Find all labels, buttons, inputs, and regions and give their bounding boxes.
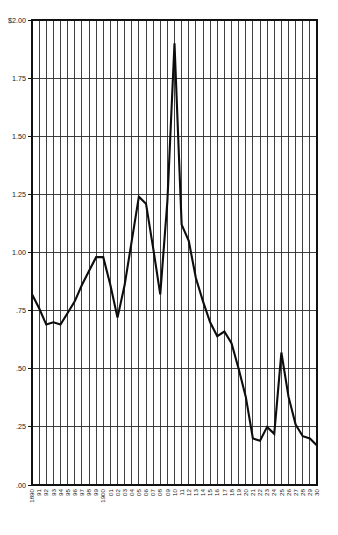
- y-axis-tick-label: .50: [16, 364, 26, 373]
- x-axis-tick-label: 92: [42, 488, 49, 495]
- x-axis-tick-label: 30: [313, 488, 320, 495]
- x-axis-tick-label: 1900: [99, 488, 106, 502]
- x-axis-tick-label: 94: [57, 488, 64, 495]
- x-axis-tick-label: 09: [164, 488, 171, 495]
- y-axis-tick-label: $2.00: [8, 16, 26, 25]
- y-axis-tick-label: 1.75: [12, 74, 26, 83]
- chart-figure: $2.001.751.501.251.00.75.50.25.00 189091…: [0, 0, 338, 535]
- x-axis-tick-label: 21: [249, 488, 256, 495]
- x-axis-tick-label: 15: [206, 488, 213, 495]
- x-axis-tick-label: 03: [121, 488, 128, 495]
- x-axis-tick-label: 95: [64, 488, 71, 495]
- x-axis-tick-label: 10: [171, 488, 178, 495]
- x-axis-tick-label: 16: [213, 488, 220, 495]
- y-axis-tick-label: .75: [16, 306, 26, 315]
- x-axis-tick-label: 20: [242, 488, 249, 495]
- x-axis-tick-label: 07: [149, 488, 156, 495]
- x-axis-tick-label: 11: [178, 488, 185, 495]
- x-axis-tick-label: 01: [107, 488, 114, 495]
- x-axis-tick-label: 19: [235, 488, 242, 495]
- x-axis-tick-label: 26: [285, 488, 292, 495]
- y-axis-tick-label: 1.00: [12, 248, 26, 257]
- y-axis-tick-label: 1.25: [12, 190, 26, 199]
- x-axis-tick-label: 17: [221, 488, 228, 495]
- x-axis-tick-label: 91: [35, 488, 42, 495]
- x-axis-tick-label: 29: [306, 488, 313, 495]
- x-axis-tick-label: 18: [228, 488, 235, 495]
- x-axis-tick-label: 14: [199, 488, 206, 495]
- y-axis-tick-label: 1.50: [12, 132, 26, 141]
- x-axis-tick-label: 05: [135, 488, 142, 495]
- x-axis-tick-label: 27: [292, 488, 299, 495]
- x-axis-tick-label: 24: [270, 488, 277, 495]
- x-axis-tick-label: 25: [278, 488, 285, 495]
- x-axis-tick-label: 04: [128, 488, 135, 495]
- x-axis-tick-label: 12: [185, 488, 192, 495]
- x-axis-tick-label: 93: [50, 488, 57, 495]
- x-axis-tick-label: 23: [263, 488, 270, 495]
- y-axis-tick-label: .00: [16, 481, 26, 490]
- x-axis-tick-label: 02: [114, 488, 121, 495]
- x-axis-tick-label: 08: [156, 488, 163, 495]
- x-axis-tick-label: 98: [85, 488, 92, 495]
- x-axis-tick-label: 99: [92, 488, 99, 495]
- x-axis-tick-label: 1890: [28, 488, 35, 502]
- line-chart-canvas: $2.001.751.501.251.00.75.50.25.00 189091…: [0, 0, 338, 535]
- y-axis-tick-label: .25: [16, 422, 26, 431]
- x-axis-tick-label: 13: [192, 488, 199, 495]
- x-axis-tick-label: 28: [299, 488, 306, 495]
- x-axis-tick-label: 97: [78, 488, 85, 495]
- x-axis-tick-label: 06: [142, 488, 149, 495]
- chart-background: [0, 0, 338, 535]
- x-axis-tick-label: 22: [256, 488, 263, 495]
- x-axis-tick-label: 96: [71, 488, 78, 495]
